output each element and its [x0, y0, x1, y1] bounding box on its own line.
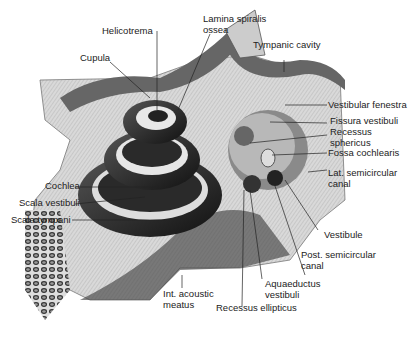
- label-post-semicircular-canal: Post. semicircular canal: [301, 250, 376, 271]
- label-tympanic-cavity: Tympanic cavity: [253, 40, 321, 51]
- anatomy-figure: Helicotrema Lamina spiralis ossea Cupula…: [0, 0, 410, 339]
- label-fossa-cochlearis: Fossa cochlearis: [328, 148, 399, 159]
- label-int-acoustic-meatus: Int. acoustic meatus: [163, 289, 214, 310]
- label-aquaeductus-vestibuli: Aquaeductus vestibuli: [265, 279, 320, 300]
- label-lat-semicircular-canal: Lat. semicircular canal: [328, 168, 397, 189]
- label-vestibule: Vestibule: [324, 230, 363, 241]
- label-lamina-spiralis-ossea: Lamina spiralis ossea: [203, 14, 266, 35]
- label-scala-tympani: Scala tympani: [11, 215, 71, 226]
- label-fissura-vestibuli: Fissura vestibuli: [330, 116, 398, 127]
- label-vestibular-fenestra: Vestibular fenestra: [328, 100, 407, 111]
- label-recessus-ellipticus: Recessus ellipticus: [216, 303, 297, 314]
- label-helicotrema: Helicotrema: [102, 26, 153, 37]
- label-cochlea: Cochlea: [45, 181, 80, 192]
- label-cupula: Cupula: [80, 53, 110, 64]
- label-recessus-sphericus: Recessus sphericus: [330, 127, 372, 148]
- label-scala-vestibuli: Scala vestibuli: [19, 198, 80, 209]
